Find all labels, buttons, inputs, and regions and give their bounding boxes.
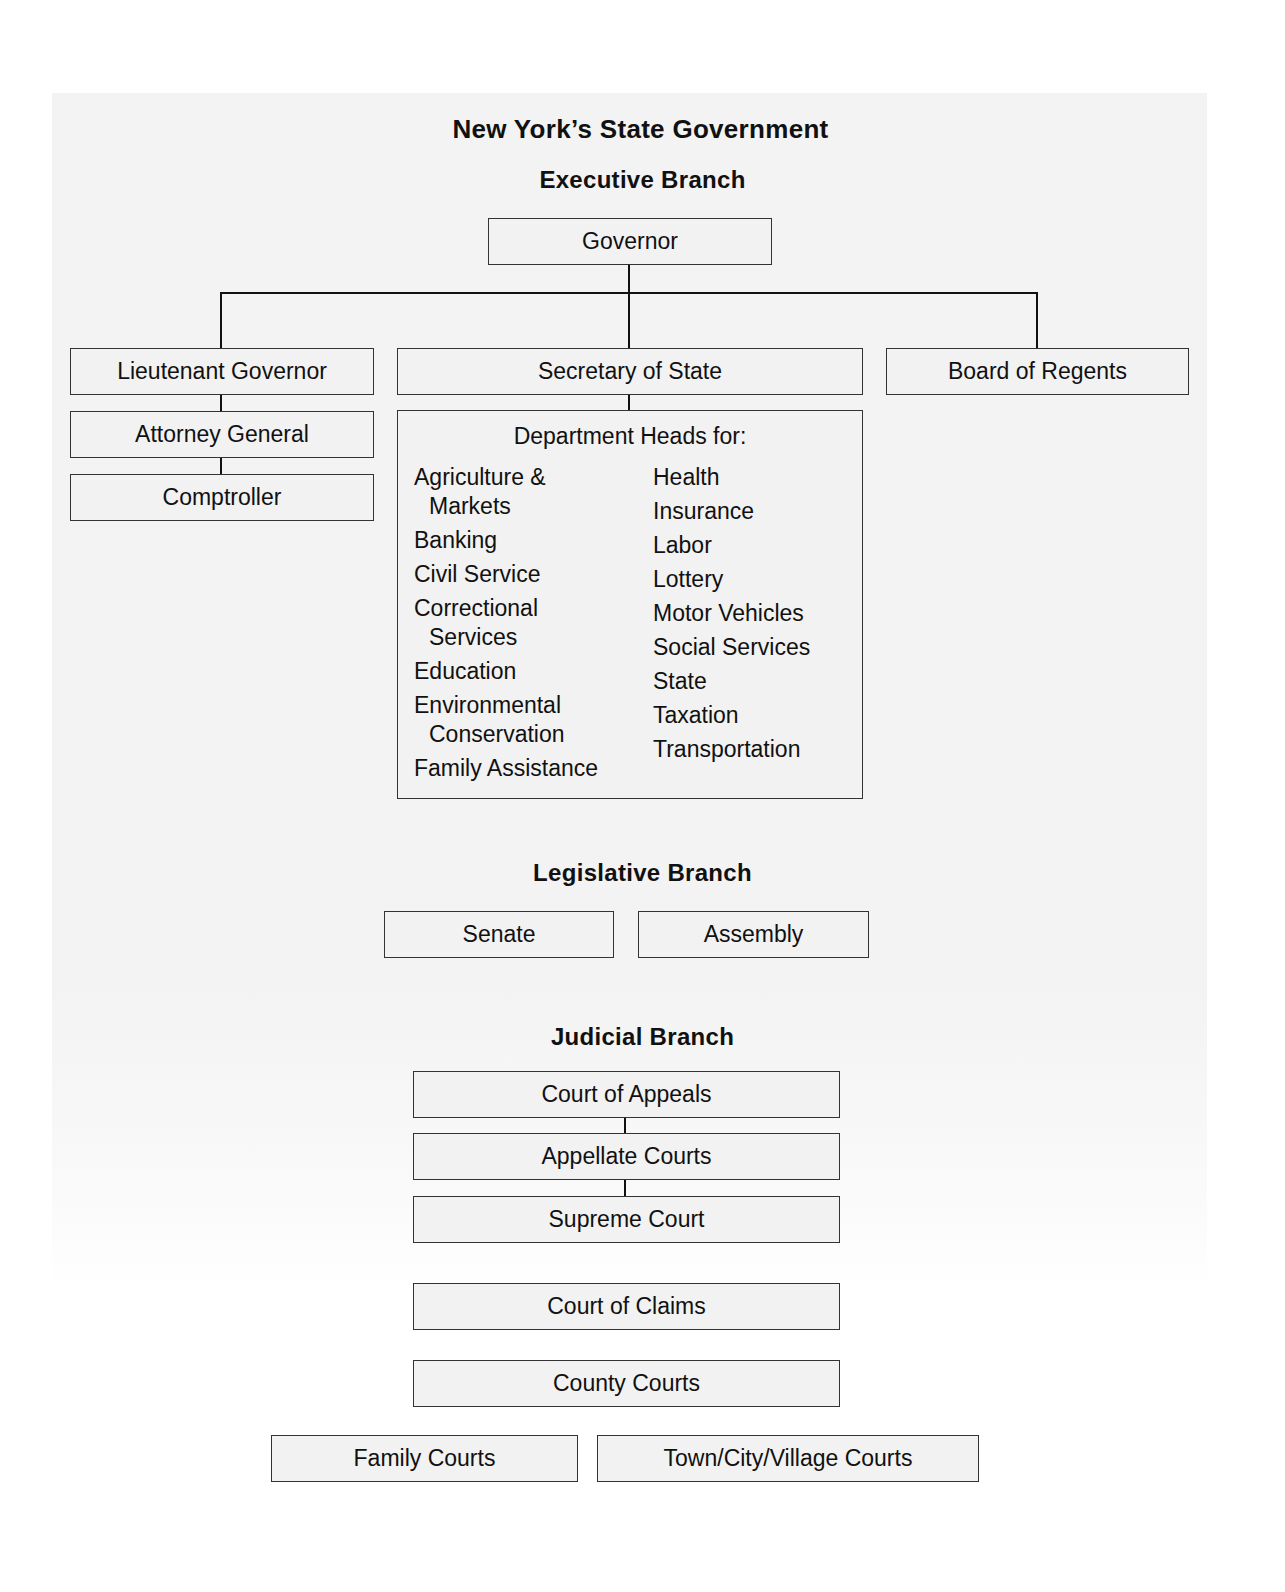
secretary-of-state-label: Secretary of State: [538, 358, 722, 385]
county-courts-label: County Courts: [553, 1370, 700, 1397]
department-item: Lottery: [653, 562, 810, 596]
senate-box: Senate: [384, 911, 614, 958]
department-item: Labor: [653, 528, 810, 562]
chart-title: New York’s State Government: [0, 114, 1283, 145]
senate-label: Senate: [463, 921, 536, 948]
board-of-regents-label: Board of Regents: [948, 358, 1127, 385]
legislative-branch-heading: Legislative Branch: [0, 859, 1285, 887]
court-of-appeals-label: Court of Appeals: [541, 1081, 711, 1108]
lt-governor-connector: [220, 292, 222, 349]
department-item: Transportation: [653, 732, 810, 766]
appellate-connector: [624, 1118, 626, 1134]
department-item: Family Assistance: [414, 751, 598, 785]
lieutenant-governor-label: Lieutenant Governor: [117, 358, 327, 385]
regents-connector: [1036, 292, 1038, 349]
department-item: Correctional Services: [414, 591, 598, 654]
secretary-of-state-box: Secretary of State: [397, 348, 863, 395]
comptroller-label: Comptroller: [163, 484, 282, 511]
executive-horizontal-connector: [220, 292, 1038, 294]
executive-branch-heading: Executive Branch: [0, 166, 1285, 194]
county-courts-box: County Courts: [413, 1360, 840, 1407]
assembly-box: Assembly: [638, 911, 869, 958]
family-courts-box: Family Courts: [271, 1435, 578, 1482]
family-courts-label: Family Courts: [354, 1445, 496, 1472]
court-of-appeals-box: Court of Appeals: [413, 1071, 840, 1118]
department-item: Agriculture & Markets: [414, 460, 598, 523]
department-list-left: Agriculture & Markets Banking Civil Serv…: [414, 460, 598, 785]
assembly-label: Assembly: [704, 921, 804, 948]
department-heads-heading: Department Heads for:: [398, 423, 862, 450]
department-heads-box: Department Heads for: Agriculture & Mark…: [397, 410, 863, 799]
local-courts-box: Town/City/Village Courts: [597, 1435, 979, 1482]
supreme-court-label: Supreme Court: [549, 1206, 705, 1233]
department-item: Civil Service: [414, 557, 598, 591]
department-item: Environmental Conservation: [414, 688, 598, 751]
governor-box: Governor: [488, 218, 772, 265]
supreme-court-box: Supreme Court: [413, 1196, 840, 1243]
attorney-general-connector: [220, 395, 222, 412]
department-item: Banking: [414, 523, 598, 557]
supreme-connector: [624, 1180, 626, 1197]
governor-connector: [628, 265, 630, 349]
attorney-general-box: Attorney General: [70, 411, 374, 458]
department-list-right: Health Insurance Labor Lottery Motor Veh…: [653, 460, 810, 766]
attorney-general-label: Attorney General: [135, 421, 309, 448]
appellate-courts-box: Appellate Courts: [413, 1133, 840, 1180]
comptroller-connector: [220, 458, 222, 475]
judicial-branch-heading: Judicial Branch: [0, 1023, 1285, 1051]
local-courts-label: Town/City/Village Courts: [664, 1445, 913, 1472]
departments-connector: [628, 395, 630, 411]
lieutenant-governor-box: Lieutenant Governor: [70, 348, 374, 395]
department-item: Taxation: [653, 698, 810, 732]
department-item: Social Services: [653, 630, 810, 664]
governor-label: Governor: [582, 228, 678, 255]
department-item: Motor Vehicles: [653, 596, 810, 630]
department-item: Health: [653, 460, 810, 494]
court-of-claims-box: Court of Claims: [413, 1283, 840, 1330]
comptroller-box: Comptroller: [70, 474, 374, 521]
court-of-claims-label: Court of Claims: [547, 1293, 705, 1320]
department-item: Education: [414, 654, 598, 688]
department-item: State: [653, 664, 810, 698]
board-of-regents-box: Board of Regents: [886, 348, 1189, 395]
department-item: Insurance: [653, 494, 810, 528]
appellate-courts-label: Appellate Courts: [541, 1143, 711, 1170]
